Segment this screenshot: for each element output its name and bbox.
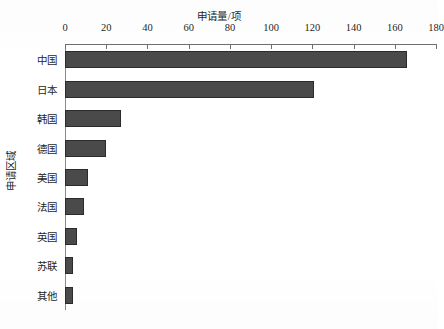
y-axis-title: 申请区域 [3, 141, 18, 201]
x-axis-tick-mark [106, 44, 107, 49]
bar-row [65, 281, 436, 310]
x-axis-tick-mark [312, 44, 313, 49]
y-axis-tick-label: 中国 [37, 45, 57, 74]
y-axis-tick-label: 苏联 [37, 251, 57, 280]
bar-row [65, 45, 436, 74]
x-axis-tick-label: 160 [387, 22, 403, 33]
bar-row [65, 133, 436, 162]
y-axis-tick-label: 韩国 [37, 104, 57, 133]
x-axis-tick-label: 60 [183, 22, 194, 33]
bar-row [65, 104, 436, 133]
y-axis-tick-label: 德国 [37, 133, 57, 162]
y-axis-tick-label: 英国 [37, 222, 57, 251]
y-axis-tick-label: 其他 [37, 281, 57, 310]
y-axis-tick-label: 日本 [37, 74, 57, 103]
bar-row [65, 163, 436, 192]
x-axis-tick-label: 120 [304, 22, 320, 33]
bar [65, 51, 407, 68]
x-axis-tick-mark [395, 44, 396, 49]
bar [65, 140, 106, 157]
bar [65, 169, 88, 186]
bar [65, 228, 77, 245]
x-axis-tick-label: 0 [62, 22, 67, 33]
y-axis-tick-label: 美国 [37, 163, 57, 192]
x-axis-tick-mark [65, 44, 66, 49]
x-axis-tick-label: 80 [225, 22, 236, 33]
x-axis-tick-label: 100 [263, 22, 279, 33]
bar-row [65, 251, 436, 280]
bar-row [65, 74, 436, 103]
x-axis-tick-label: 40 [142, 22, 153, 33]
x-axis-tick-label: 140 [346, 22, 362, 33]
x-axis-tick-mark [147, 44, 148, 49]
bar-row [65, 222, 436, 251]
bar-row [65, 192, 436, 221]
x-axis-tick-labels: 020406080100120140160180 [0, 22, 438, 36]
bar [65, 110, 121, 127]
plot-area [65, 45, 436, 310]
bar [65, 287, 73, 304]
x-axis-tick-mark [189, 44, 190, 49]
bar [65, 198, 84, 215]
x-axis-tick-mark [271, 44, 272, 49]
x-axis-title: 申请量/项 [0, 8, 438, 23]
y-axis-tick-label: 法国 [37, 192, 57, 221]
x-axis-tick-label: 180 [428, 22, 444, 33]
bar [65, 81, 314, 98]
x-axis-tick-mark [354, 44, 355, 49]
x-axis-tick-mark [230, 44, 231, 49]
x-axis-tick-mark [436, 44, 437, 49]
bar [65, 257, 73, 274]
x-axis-tick-label: 20 [101, 22, 112, 33]
